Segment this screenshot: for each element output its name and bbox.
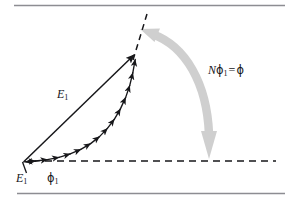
label-total-phase-symbol: ϕ <box>216 63 224 77</box>
resultant-arrow <box>24 55 134 162</box>
small-arrow-icon <box>133 60 135 73</box>
label-total-phase: Nϕ1=ϕ <box>208 64 244 78</box>
origin-marker-arrow <box>26 161 41 162</box>
small-arrow-icon <box>126 86 130 98</box>
small-arrow-icon <box>91 137 100 144</box>
small-arrow-icon <box>70 149 81 154</box>
small-arrow-icon <box>107 119 114 128</box>
label-total-phase-factor: N <box>208 63 216 77</box>
label-origin-E1-subscript: 1 <box>23 177 27 186</box>
small-arrow-icon <box>130 73 133 86</box>
label-total-phase-subscript: 1 <box>224 69 228 78</box>
figure-container: E1 E1 ϕ1 Nϕ1=ϕ <box>0 0 289 200</box>
small-arrow-icon <box>81 144 91 150</box>
figure-canvas <box>0 0 289 200</box>
small-arrow-icon <box>120 98 125 109</box>
label-resultant-E1-subscript: 1 <box>64 93 68 102</box>
small-arrow-icon <box>100 128 108 136</box>
dashed-tangent <box>133 14 147 60</box>
label-phase-increment: ϕ1 <box>47 172 59 186</box>
label-total-phase-result: ϕ <box>236 63 244 77</box>
small-arrow-icon <box>59 154 70 157</box>
label-resultant-E1: E1 <box>57 88 68 102</box>
label-origin-E1: E1 <box>16 172 27 186</box>
label-phase-increment-subscript: 1 <box>55 177 59 186</box>
small-arrow-icon <box>114 109 120 119</box>
small-arrow-icon <box>47 157 59 159</box>
label-phase-increment-symbol: ϕ <box>47 171 55 185</box>
curved-double-arrow-icon <box>140 29 217 160</box>
